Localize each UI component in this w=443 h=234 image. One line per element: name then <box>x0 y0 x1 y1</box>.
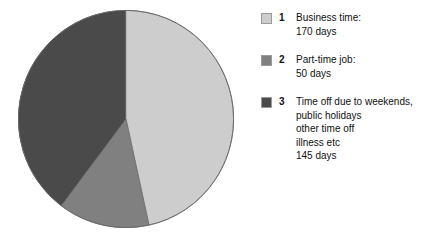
legend-label-1: Business time: 170 days <box>296 11 441 38</box>
legend-swatch-1 <box>261 13 272 24</box>
legend-item-business-time[interactable]: 1 Business time: 170 days <box>261 11 441 38</box>
legend-item-part-time-job[interactable]: 2 Part-time job: 50 days <box>261 53 441 80</box>
legend-label-2: Part-time job: 50 days <box>296 53 441 80</box>
pie-chart-svg <box>18 10 234 228</box>
pie-chart-figure: 1 Business time: 170 days 2 Part-time jo… <box>0 0 443 234</box>
legend-index-3: 3 <box>279 95 296 109</box>
legend-item-time-off[interactable]: 3 Time off due to weekends, public holid… <box>261 95 441 163</box>
legend-label-3: Time off due to weekends, public holiday… <box>296 95 441 163</box>
legend-swatch-2 <box>261 55 272 66</box>
legend-swatch-3 <box>261 97 272 108</box>
legend-index-1: 1 <box>279 11 296 25</box>
legend-index-2: 2 <box>279 53 296 67</box>
legend: 1 Business time: 170 days 2 Part-time jo… <box>261 11 441 163</box>
pie-chart <box>18 10 234 228</box>
